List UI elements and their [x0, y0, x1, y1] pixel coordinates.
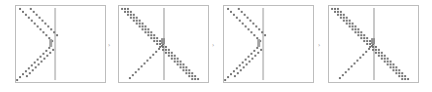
reflected-dot	[161, 45, 163, 47]
transmitted-dot	[369, 46, 371, 48]
transmitted-dot	[183, 63, 185, 65]
transmitted-dot	[375, 49, 377, 51]
reflected-dot	[249, 61, 251, 63]
incident-dot	[238, 8, 240, 10]
incident-dot	[53, 31, 55, 33]
transmitted-dot	[180, 63, 182, 65]
transmitted-dot	[156, 43, 158, 45]
reflected-dot	[46, 55, 48, 57]
reflected-dot	[35, 66, 37, 68]
transmitted-dot	[375, 52, 377, 54]
transmitted-dot	[393, 69, 395, 71]
transmitted-dot	[401, 78, 403, 80]
reflected-dot	[129, 77, 131, 79]
transmitted-dot	[346, 20, 348, 22]
reflected-dot	[371, 45, 373, 47]
transmitted-dot	[130, 11, 132, 13]
transmitted-dot	[139, 20, 141, 22]
reflected-dot	[29, 72, 31, 74]
reflected-dot	[257, 52, 259, 54]
barrier-line	[54, 8, 56, 80]
transmitted-dot	[334, 11, 336, 13]
transmitted-dot	[130, 14, 132, 16]
transmitted-dot	[127, 11, 129, 13]
incident-dot	[255, 25, 257, 27]
transmitted-dot	[191, 75, 193, 77]
transmitted-dot	[171, 55, 173, 57]
reflected-dot	[230, 73, 232, 75]
transmitted-dot	[183, 69, 185, 71]
transmitted-dot	[171, 52, 173, 54]
reflected-dot	[260, 49, 262, 51]
reflected-dot	[342, 74, 344, 76]
transmitted-dot	[159, 46, 161, 48]
panel-3	[223, 5, 314, 83]
reflected-dot	[234, 75, 236, 77]
transmitted-dot	[124, 8, 126, 10]
reflected-dot	[38, 63, 40, 65]
incident-dot	[42, 31, 44, 33]
incident-dot	[28, 17, 30, 19]
transmitted-dot	[180, 61, 182, 63]
incident-dot	[36, 14, 38, 16]
incident-dot	[40, 28, 42, 30]
reflected-dot	[351, 65, 353, 67]
transmitted-dot	[384, 61, 386, 63]
transmitted-dot	[387, 61, 389, 63]
transmitted-dot	[340, 17, 342, 19]
transmitted-dot	[147, 28, 149, 30]
incident-dot	[34, 23, 36, 25]
panel-4	[328, 5, 419, 83]
transmitted-dot	[165, 52, 167, 54]
incident-dot	[56, 34, 58, 36]
transmitted-dot	[355, 25, 357, 27]
reflected-dot	[45, 50, 47, 52]
transmitted-dot	[150, 34, 152, 36]
reflected-dot	[25, 70, 27, 72]
transmitted-dot	[343, 20, 345, 22]
reflected-dot	[248, 56, 250, 58]
reflected-dot	[40, 56, 42, 58]
transmitted-dot	[384, 58, 386, 60]
incident-dot	[230, 11, 232, 13]
transmitted-dot	[401, 75, 403, 77]
transmitted-dot	[404, 78, 406, 80]
transmitted-dot	[357, 28, 359, 30]
transmitted-dot	[136, 17, 138, 19]
panel-1-canvas	[16, 6, 105, 82]
reflected-dot	[233, 70, 235, 72]
transmitted-dot	[194, 75, 196, 77]
transmitted-dot	[363, 37, 365, 39]
reflected-dot	[19, 76, 21, 78]
transmitted-dot	[133, 14, 135, 16]
reflected-dot	[22, 73, 24, 75]
transmitted-dot	[390, 66, 392, 68]
transmitted-dot	[153, 40, 155, 42]
transmitted-dot	[142, 23, 144, 25]
transmitted-dot	[404, 75, 406, 77]
transmitted-dot	[156, 37, 158, 39]
reflected-dot	[34, 62, 36, 64]
incident-dot	[245, 25, 247, 27]
incident-dot	[50, 28, 52, 30]
transmitted-dot	[381, 52, 383, 54]
transmitted-dot	[340, 14, 342, 16]
transmitted-dot	[197, 78, 199, 80]
transmitted-dot	[346, 17, 348, 19]
transmitted-dot	[360, 37, 362, 39]
incident-dot	[250, 31, 252, 33]
reflected-dot	[237, 72, 239, 74]
transmitted-dot	[366, 43, 368, 45]
transmitted-dot	[360, 34, 362, 36]
incident-dot	[227, 8, 229, 10]
crossing-point	[161, 38, 165, 44]
reflected-dot	[144, 63, 146, 65]
reflected-dot	[236, 67, 238, 69]
transmitted-dot	[142, 25, 144, 27]
reflected-dot	[245, 59, 247, 61]
incident-dot	[30, 8, 32, 10]
transmitted-dot	[185, 69, 187, 71]
transmitted-dot	[337, 11, 339, 13]
reflected-dot	[368, 48, 370, 50]
reflected-dot	[354, 63, 356, 65]
